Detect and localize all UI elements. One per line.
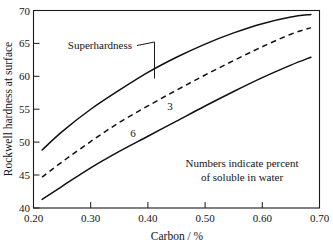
- note-line-2: of soluble in water: [201, 171, 284, 183]
- chart-canvas: 70 65 60 55 50 45 40 0.20 0.30 0.40 0.50…: [0, 0, 333, 246]
- x-tick-label-0.70: 0.70: [310, 212, 330, 224]
- x-tick-label-0.50: 0.50: [195, 212, 215, 224]
- x-axis-title: Carbon / %: [151, 230, 204, 242]
- y-tick-label-45: 45: [19, 169, 31, 181]
- y-tick-label-65: 65: [19, 37, 31, 49]
- y-tick-label-60: 60: [19, 70, 31, 82]
- y-tick-label-70: 70: [19, 5, 31, 17]
- note-line-1: Numbers indicate percent: [185, 157, 298, 169]
- x-tick-label-0.30: 0.30: [81, 212, 101, 224]
- chart-figure: 70 65 60 55 50 45 40 0.20 0.30 0.40 0.50…: [0, 0, 333, 246]
- label-curve-3: 3: [167, 100, 173, 112]
- x-tick-label-0.20: 0.20: [24, 212, 44, 224]
- y-tick-label-55: 55: [19, 103, 31, 115]
- y-tick-label-50: 50: [19, 136, 31, 148]
- label-curve-6: 6: [130, 127, 136, 139]
- label-superhardness: Superhardness: [68, 39, 132, 51]
- x-tick-label-0.60: 0.60: [253, 212, 273, 224]
- x-tick-label-0.40: 0.40: [138, 212, 158, 224]
- y-axis-title: Rockwell hardness at surface: [2, 42, 14, 176]
